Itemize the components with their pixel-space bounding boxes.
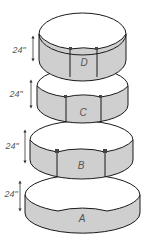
ring-label-b: B xyxy=(78,160,85,171)
ring-a: A 24" xyxy=(3,175,140,233)
ring-d: D 24" xyxy=(11,13,126,81)
height-label-d: 24" xyxy=(11,45,26,55)
ring-label-c: C xyxy=(79,107,87,118)
ring-label-d: D xyxy=(80,57,87,68)
ring-b: B 24" xyxy=(4,121,133,179)
height-label-a: 24" xyxy=(3,189,18,199)
stacked-rings-diagram: A 24" B 24" C 24" D xyxy=(0,0,150,243)
height-label-c: 24" xyxy=(8,89,23,99)
height-label-b: 24" xyxy=(4,141,19,151)
ring-label-a: A xyxy=(78,213,86,224)
